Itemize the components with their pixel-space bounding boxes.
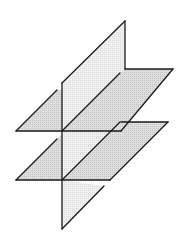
planes-svg bbox=[0, 0, 189, 242]
planes-diagram bbox=[0, 0, 189, 242]
